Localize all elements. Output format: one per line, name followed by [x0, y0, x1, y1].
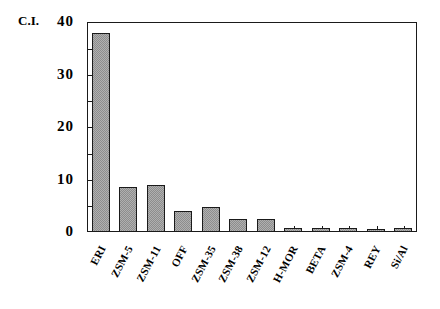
bar-si-al [394, 228, 412, 232]
bar-eri [92, 33, 110, 233]
bar-zsm-5 [119, 187, 137, 232]
bar-zsm-38 [229, 219, 247, 232]
bar-zsm-12 [257, 219, 275, 232]
bar-chart: C.I. 010203040 ERIZSM-5ZSM-11OFFZSM-35ZS… [0, 0, 440, 309]
bar-zsm-4 [339, 228, 357, 232]
bar-rey [367, 229, 385, 233]
y-tick-label-0: 0 [40, 224, 74, 238]
bar-h-mor [284, 228, 302, 232]
y-tick-label-40: 40 [40, 14, 74, 28]
bar-zsm-11 [147, 185, 165, 232]
bar-beta [312, 228, 330, 232]
bars-layer [87, 22, 417, 232]
y-tick-label-20: 20 [40, 119, 74, 133]
y-tick-label-10: 10 [40, 172, 74, 186]
y-tick-label-30: 30 [40, 67, 74, 81]
y-axis-title: C.I. [18, 14, 39, 28]
bar-off [174, 211, 192, 232]
bar-zsm-35 [202, 207, 220, 232]
